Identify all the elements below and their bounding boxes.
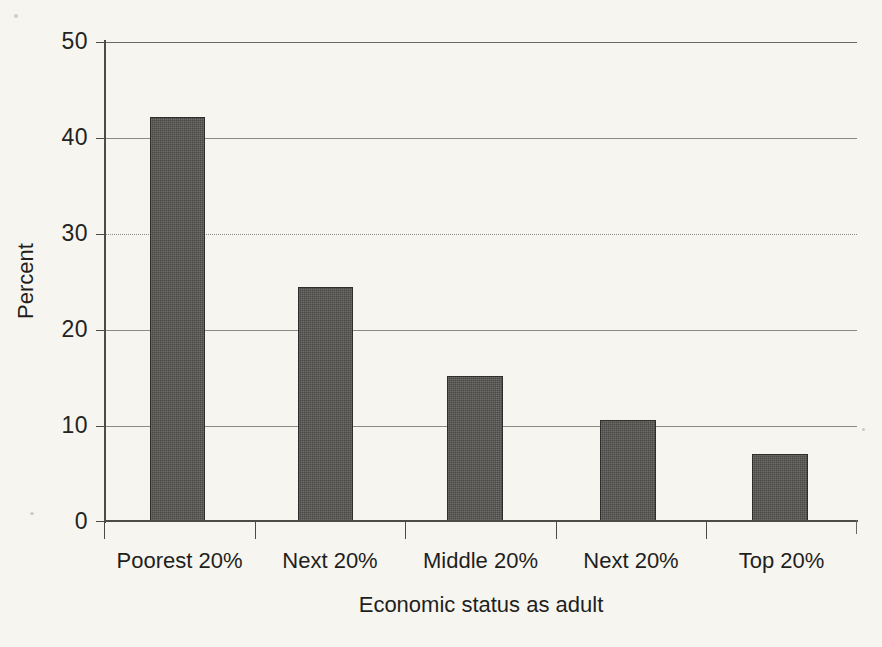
- bar-middle-20: [447, 376, 503, 521]
- gridline-50: [104, 42, 857, 43]
- bar-poorest-20: [150, 117, 205, 521]
- scan-speck: [862, 428, 865, 431]
- y-axis-line: [104, 40, 106, 523]
- x-category-label-poorest-20: Poorest 20%: [104, 548, 255, 574]
- x-category-label-middle-20: Middle 20%: [405, 548, 556, 574]
- gridline-30: [104, 234, 857, 235]
- bar-next-20-lower: [298, 287, 353, 521]
- y-tick-label-0: 0: [0, 508, 88, 535]
- x-category-label-next-20-upper: Next 20%: [556, 548, 706, 574]
- gridline-20: [104, 330, 857, 331]
- x-axis-title: Economic status as adult: [104, 592, 858, 618]
- x-axis-right-end-tick: [856, 520, 857, 534]
- bar-top-20: [752, 454, 808, 521]
- y-tick-label-40: 40: [0, 124, 88, 151]
- x-category-label-next-20-lower: Next 20%: [255, 548, 405, 574]
- x-category-label-top-20: Top 20%: [706, 548, 857, 574]
- x-tick-mark-4: [706, 522, 707, 539]
- bar-chart: 50 40 30 20 10 0 Percent Poorest 20% Nex…: [0, 0, 882, 647]
- bar-next-20-upper: [600, 420, 656, 521]
- y-tick-label-50: 50: [0, 28, 88, 55]
- y-tick-label-10: 10: [0, 412, 88, 439]
- gridline-40: [104, 138, 857, 139]
- y-axis-title: Percent: [13, 181, 39, 381]
- x-tick-mark-3: [556, 522, 557, 539]
- x-tick-mark-2: [405, 522, 406, 539]
- x-tick-mark-1: [255, 522, 256, 539]
- plot-area: [104, 42, 857, 521]
- x-axis-line: [104, 520, 858, 522]
- x-tick-mark-0: [104, 522, 105, 539]
